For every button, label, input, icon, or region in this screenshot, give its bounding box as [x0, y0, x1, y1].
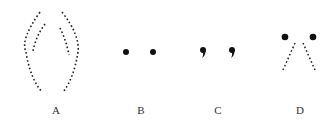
panel-label-c: C — [208, 104, 228, 116]
dot-right — [150, 49, 156, 55]
comma-right — [229, 47, 235, 58]
panel-b-dots — [123, 49, 156, 55]
arc-right-inner — [60, 28, 69, 55]
arc-left-outer — [25, 12, 42, 92]
dot-right — [310, 34, 317, 41]
dashed-line-left — [283, 43, 295, 70]
panel-c-commas — [200, 47, 235, 58]
panel-label-b: B — [131, 104, 151, 116]
arc-right-outer — [62, 12, 78, 92]
dot-left — [123, 49, 129, 55]
dot-left — [282, 34, 289, 41]
dashed-line-right — [303, 43, 315, 70]
panel-label-d: D — [290, 104, 310, 116]
panel-label-a: A — [46, 104, 66, 116]
arc-left-inner — [33, 24, 45, 51]
panel-d — [282, 34, 317, 70]
panel-a-arcs — [25, 12, 79, 92]
comma-left — [200, 47, 206, 58]
